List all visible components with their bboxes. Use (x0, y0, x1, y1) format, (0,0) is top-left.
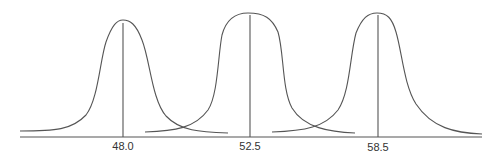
bell-curve-1 (20, 20, 228, 133)
bell-curve-3 (272, 13, 482, 134)
curve-group-3: 58.5 (272, 13, 482, 153)
center-label-2: 52.5 (239, 140, 260, 152)
diagram-canvas: 48.0 52.5 58.5 (0, 0, 497, 157)
distribution-diagram: 48.0 52.5 58.5 (0, 0, 497, 157)
curve-group-2: 52.5 (145, 13, 355, 152)
center-label-1: 48.0 (112, 140, 133, 152)
curve-group-1: 48.0 (20, 20, 228, 152)
center-label-3: 58.5 (367, 141, 388, 153)
